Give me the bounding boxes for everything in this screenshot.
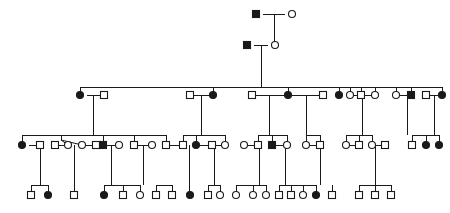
pedigree-symbol-female-affected[interactable] [436,142,443,149]
pedigree-symbol-male-unaffected[interactable] [356,192,363,199]
pedigree-symbol-female-affected[interactable] [45,192,52,199]
pedigree-symbol-female-unaffected[interactable] [393,92,400,99]
pedigree-symbol-female-affected[interactable] [423,142,430,149]
pedigree-symbol-male-unaffected[interactable] [276,192,283,199]
pedigree-symbol-male-unaffected[interactable] [317,142,324,149]
pedigree-symbol-female-affected[interactable] [101,192,108,199]
pedigree-symbol-female-affected[interactable] [210,92,217,99]
pedigree-symbol-male-unaffected[interactable] [320,92,327,99]
pedigree-symbol-female-affected[interactable] [19,142,26,149]
pedigree-chart [0,0,450,213]
pedigree-symbol-female-unaffected[interactable] [65,142,72,149]
pedigree-symbol-female-unaffected[interactable] [343,142,350,149]
pedigree-symbol-male-affected[interactable] [253,11,260,18]
pedigree-symbol-female-affected[interactable] [193,142,200,149]
pedigree-symbol-male-unaffected[interactable] [409,142,416,149]
pedigree-symbol-male-unaffected[interactable] [249,92,256,99]
pedigree-symbol-male-affected[interactable] [100,142,107,149]
pedigree-symbol-female-unaffected[interactable] [289,11,296,18]
pedigree-symbol-male-unaffected[interactable] [28,192,35,199]
pedigree-symbol-female-affected[interactable] [285,92,292,99]
pedigree-symbol-female-unaffected[interactable] [222,142,229,149]
pedigree-symbol-female-unaffected[interactable] [372,92,379,99]
connection-lines-layer [22,14,442,195]
pedigree-symbol-male-affected[interactable] [269,142,276,149]
pedigree-symbol-male-unaffected[interactable] [131,142,138,149]
pedigree-symbol-female-unaffected[interactable] [79,142,86,149]
pedigree-symbol-male-unaffected[interactable] [37,142,44,149]
pedigree-symbol-male-unaffected[interactable] [163,142,170,149]
pedigree-symbol-male-unaffected[interactable] [169,192,176,199]
pedigree-canvas [0,0,450,213]
pedigree-symbol-female-unaffected[interactable] [233,192,240,199]
pedigree-symbol-female-unaffected[interactable] [241,142,248,149]
pedigree-symbol-male-unaffected[interactable] [255,142,262,149]
pedigree-symbol-male-unaffected[interactable] [71,192,78,199]
individual-symbols-layer [19,11,446,199]
pedigree-symbol-female-unaffected[interactable] [137,192,144,199]
pedigree-symbol-male-unaffected[interactable] [153,192,160,199]
pedigree-symbol-male-unaffected[interactable] [356,142,363,149]
pedigree-symbol-female-unaffected[interactable] [347,92,354,99]
pedigree-symbol-male-unaffected[interactable] [209,142,216,149]
pedigree-symbol-female-affected[interactable] [187,192,194,199]
pedigree-symbol-male-unaffected[interactable] [382,142,389,149]
pedigree-symbol-male-unaffected[interactable] [52,142,59,149]
pedigree-symbol-male-unaffected[interactable] [120,192,127,199]
pedigree-symbol-female-affected[interactable] [439,92,446,99]
pedigree-symbol-male-unaffected[interactable] [205,192,212,199]
pedigree-symbol-male-unaffected[interactable] [187,92,194,99]
pedigree-symbol-female-unaffected[interactable] [250,192,257,199]
pedigree-symbol-male-affected[interactable] [244,42,251,49]
pedigree-symbol-male-unaffected[interactable] [372,192,379,199]
pedigree-symbol-female-unaffected[interactable] [116,142,123,149]
pedigree-symbol-male-unaffected[interactable] [288,192,295,199]
pedigree-symbol-female-affected[interactable] [77,92,84,99]
pedigree-symbol-male-unaffected[interactable] [388,192,395,199]
pedigree-symbol-female-affected[interactable] [336,92,343,99]
pedigree-symbol-male-unaffected[interactable] [329,192,336,199]
pedigree-symbol-female-unaffected[interactable] [272,42,279,49]
pedigree-symbol-male-unaffected[interactable] [358,92,365,99]
pedigree-symbol-male-unaffected[interactable] [423,92,430,99]
pedigree-symbol-male-unaffected[interactable] [101,92,108,99]
pedigree-symbol-male-affected[interactable] [408,92,415,99]
pedigree-symbol-female-unaffected[interactable] [263,192,270,199]
pedigree-symbol-female-unaffected[interactable] [300,192,307,199]
pedigree-symbol-female-unaffected[interactable] [284,142,291,149]
pedigree-symbol-male-unaffected[interactable] [93,142,100,149]
pedigree-symbol-female-unaffected[interactable] [303,142,310,149]
pedigree-symbol-female-affected[interactable] [313,192,320,199]
pedigree-symbol-female-unaffected[interactable] [369,142,376,149]
pedigree-symbol-male-unaffected[interactable] [180,142,187,149]
pedigree-symbol-female-unaffected[interactable] [217,192,224,199]
pedigree-symbol-female-unaffected[interactable] [149,142,156,149]
